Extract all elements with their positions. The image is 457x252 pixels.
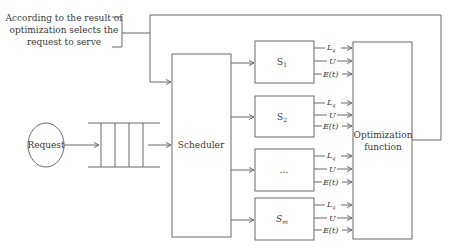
optimization-label-line1: Optimization xyxy=(354,130,413,140)
svg-text:According to the result of: According to the result of xyxy=(4,13,123,23)
metrics-sm: Lq U E(t) xyxy=(314,198,352,235)
svg-text:U: U xyxy=(329,214,336,223)
svg-text:E(t): E(t) xyxy=(322,226,338,235)
scheduler-label: Scheduler xyxy=(178,140,225,150)
metrics-s1: Lq U E(t) xyxy=(314,41,352,79)
server-sm: Sm xyxy=(255,198,314,240)
server-s2: S2 xyxy=(255,96,314,137)
svg-text:U: U xyxy=(329,57,336,66)
server-s1: S1 xyxy=(255,41,314,83)
svg-text:E(t): E(t) xyxy=(322,178,338,187)
svg-text:U: U xyxy=(329,165,336,174)
server-ellipsis: … xyxy=(255,149,314,191)
svg-text:U: U xyxy=(329,111,336,120)
optimization-function-box xyxy=(353,42,412,239)
svg-text:E(t): E(t) xyxy=(322,122,338,131)
svg-text:E(t): E(t) xyxy=(322,70,338,79)
svg-text:request to serve: request to serve xyxy=(27,37,101,47)
annotation-text: According to the result of optimization … xyxy=(4,13,123,47)
optimization-label-line2: function xyxy=(364,142,402,152)
metrics-s2: Lq U E(t) xyxy=(314,96,352,131)
request-label: Request xyxy=(27,140,65,150)
svg-text:optimization selects the: optimization selects the xyxy=(10,25,119,35)
svg-text:…: … xyxy=(280,165,289,175)
scheduling-diagram: According to the result of optimization … xyxy=(0,0,457,252)
metrics-sdots: Lq U E(t) xyxy=(314,149,352,187)
